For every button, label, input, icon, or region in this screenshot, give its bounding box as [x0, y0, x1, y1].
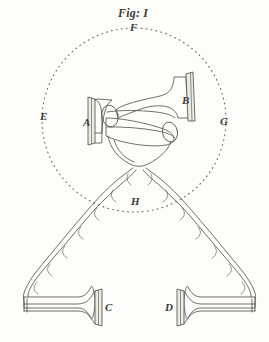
label-f: F: [130, 22, 137, 33]
label-g: G: [220, 116, 228, 127]
central-horn-assembly: [88, 72, 195, 166]
left-braid-6: [48, 264, 52, 276]
right-tube-edge-b: [143, 170, 251, 304]
dotted-circle: [42, 28, 226, 212]
left-tube-edge-b: [28, 170, 136, 304]
engraving-plate: .ln { fill:none; stroke:#55544e; stroke-…: [0, 0, 269, 342]
left-braid-7: [34, 282, 38, 294]
figure-title: Fig: I: [118, 7, 148, 19]
trumpet-d-flare-lower: [184, 311, 255, 324]
label-h: H: [131, 196, 140, 207]
left-braid-2: [111, 190, 116, 202]
figure-drawing: .ln { fill:none; stroke:#55544e; stroke-…: [0, 0, 269, 342]
label-d: D: [165, 302, 173, 313]
right-braid-2: [163, 190, 168, 202]
label-a: A: [83, 117, 90, 128]
right-braided-tube: [143, 168, 256, 304]
right-braid-5: [212, 246, 216, 258]
left-braid-4: [79, 227, 83, 239]
right-braid-7: [241, 282, 245, 294]
left-braid-5: [63, 246, 67, 258]
right-braid-6: [227, 264, 231, 276]
left-braid-3: [95, 208, 99, 220]
trumpet-c-flare-lower: [24, 311, 95, 324]
label-e: E: [40, 111, 47, 122]
left-braided-tube: [23, 168, 136, 304]
right-braid-4: [196, 227, 200, 239]
right-braid-3: [180, 208, 184, 220]
label-b: B: [182, 95, 189, 106]
label-c: C: [105, 302, 112, 313]
